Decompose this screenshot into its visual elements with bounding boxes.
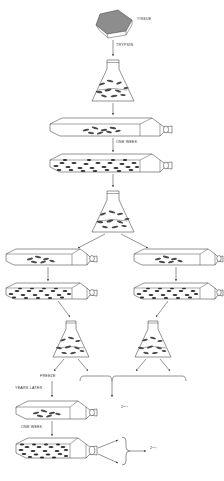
- erlenmeyer-flask-2: [92, 191, 134, 232]
- label-yield-mid: 2ⁿ⁺¹: [121, 406, 128, 410]
- label-tissue: TISSUE: [137, 18, 151, 22]
- diagram-canvas: TISSUE TRYPSIN ONE WEEK FREEZE YEARS LAT…: [0, 0, 224, 481]
- diagram-artwork: [0, 0, 224, 481]
- culture-flask-2: [50, 154, 172, 172]
- final-brace: [122, 437, 146, 465]
- arrow-split-right: [121, 234, 148, 248]
- arrow-right-pool-b: [160, 359, 170, 371]
- culture-flask-right-1: [134, 249, 223, 265]
- culture-flask-left-2: [6, 283, 97, 299]
- arrow-left-to-erlen: [58, 301, 70, 317]
- tissue-block-shape: [96, 10, 132, 38]
- arrow-split-left: [78, 234, 105, 248]
- erlenmeyer-flask-left: [53, 321, 89, 357]
- culture-flask-right-2: [134, 283, 223, 299]
- arrow-right-pool-a: [136, 359, 146, 371]
- culture-flask-4: [16, 438, 97, 458]
- arrow-final-down: [98, 454, 118, 463]
- culture-flask-1: [50, 118, 172, 136]
- label-one-week-2: ONE WEEK: [21, 426, 42, 430]
- label-one-week-1: ONE WEEK: [116, 141, 137, 145]
- arrow-right-to-erlen: [156, 301, 168, 317]
- arrow-freeze-branch: [54, 359, 64, 371]
- arrow-final-up: [98, 440, 118, 448]
- pooling-brace: [80, 376, 186, 397]
- erlenmeyer-flask-1: [92, 60, 134, 101]
- label-yield-bottom: 2ⁿ⁺¹: [150, 447, 157, 451]
- label-freeze: FREEZE: [40, 375, 56, 379]
- arrow-left-pool: [78, 359, 88, 371]
- culture-flask-left-1: [6, 249, 97, 265]
- erlenmeyer-flask-right: [135, 321, 171, 357]
- label-trypsin: TRYPSIN: [116, 44, 133, 48]
- culture-flask-3: [16, 401, 97, 419]
- label-years-later: YEARS LATER: [15, 387, 42, 391]
